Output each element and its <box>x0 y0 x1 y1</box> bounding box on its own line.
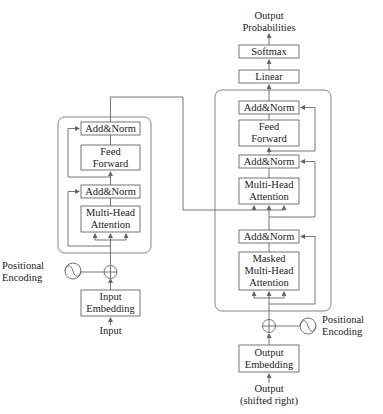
output-label-line1: Output <box>224 383 314 395</box>
decoder-mha-line2: Attention <box>249 191 289 203</box>
masked-mha-line2: Multi-Head <box>245 265 294 277</box>
encoder-add-norm-top: Add&Norm <box>81 122 140 135</box>
decoder-pe-line2: Encoding <box>322 326 382 338</box>
decoder-masked-multi-head-attention: Masked Multi-Head Attention <box>239 252 299 290</box>
output-embedding-line2: Embedding <box>245 359 293 371</box>
decoder-add-norm-top: Add&Norm <box>239 101 299 114</box>
output-shifted-right-label: Output (shifted right) <box>224 383 314 407</box>
decoder-ff-line2: Forward <box>251 133 287 145</box>
encoder-feed-forward-line1: Feed <box>100 146 120 158</box>
encoder-pe-line2: Encoding <box>2 272 62 284</box>
decoder-add-norm-bottom: Add&Norm <box>239 230 299 243</box>
decoder-mha-line1: Multi-Head <box>245 179 294 191</box>
input-embedding-line1: Input <box>99 291 121 303</box>
input-label: Input <box>81 325 140 337</box>
encoder-mha-line2: Attention <box>91 219 131 231</box>
output-probabilities-line2: Probabilities <box>224 22 314 34</box>
output-probabilities-label: Output Probabilities <box>224 10 314 34</box>
softmax: Softmax <box>239 45 299 58</box>
output-probabilities-line1: Output <box>224 10 314 22</box>
masked-mha-line1: Masked <box>252 253 285 265</box>
encoder-pe-line1: Positional <box>2 260 62 272</box>
decoder-ff-line1: Feed <box>259 121 279 133</box>
output-embedding: Output Embedding <box>239 345 299 372</box>
output-embedding-line1: Output <box>254 347 283 359</box>
decoder-multi-head-attention: Multi-Head Attention <box>239 178 299 204</box>
encoder-feed-forward-line2: Forward <box>93 158 129 170</box>
decoder-positional-encoding-label: Positional Encoding <box>322 314 382 338</box>
encoder-positional-encoding-label: Positional Encoding <box>2 260 62 284</box>
encoder-multi-head-attention: Multi-Head Attention <box>81 206 140 232</box>
decoder-add-norm-mid: Add&Norm <box>239 155 299 168</box>
linear: Linear <box>239 70 299 83</box>
encoder-mha-line1: Multi-Head <box>86 207 135 219</box>
encoder-feed-forward: Feed Forward <box>81 145 140 170</box>
transformer-diagram <box>0 0 383 414</box>
output-label-line2: (shifted right) <box>224 395 314 407</box>
encoder-add-norm-bottom: Add&Norm <box>81 185 140 198</box>
input-embedding-line2: Embedding <box>86 303 134 315</box>
input-embedding: Input Embedding <box>81 290 140 316</box>
masked-mha-line3: Attention <box>249 277 289 289</box>
decoder-pe-line1: Positional <box>322 314 382 326</box>
decoder-feed-forward: Feed Forward <box>239 120 299 146</box>
